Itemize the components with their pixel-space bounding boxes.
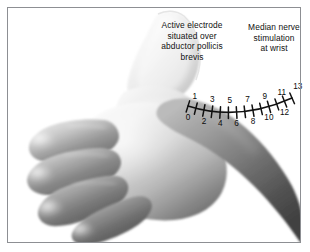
annotation-median-nerve: Median nerve stimulation at wrist bbox=[236, 22, 300, 54]
annotation-active-electrode: Active electrode situated over abductor … bbox=[148, 20, 236, 62]
figure-container: Active electrode situated over abductor … bbox=[0, 0, 310, 252]
hand-photograph: Active electrode situated over abductor … bbox=[8, 8, 300, 242]
